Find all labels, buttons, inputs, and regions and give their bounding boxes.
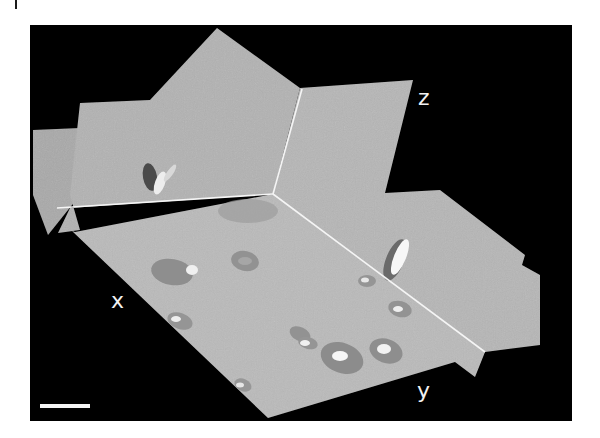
scale-bar xyxy=(40,404,90,408)
axis-label-y: y xyxy=(417,380,430,402)
panel-label-mark xyxy=(15,0,17,9)
axis-label-z: z xyxy=(418,87,430,109)
orthoslice-planes xyxy=(30,25,572,421)
axis-label-x: x xyxy=(111,290,124,312)
orthoslice-figure: z x y xyxy=(30,25,572,421)
